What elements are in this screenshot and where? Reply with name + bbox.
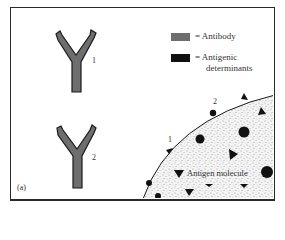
legend-antibody-text: = Antibody [195,32,236,41]
legend-antibody-swatch [171,33,190,41]
legend-determinant-text-2: determinants [206,64,253,73]
panel-label: (a) [17,184,26,192]
antigen-molecule [143,93,275,199]
legend-determinant-swatch [171,54,190,62]
antibody-2-label: 2 [92,154,96,162]
antigen-label: Antigen molecule [187,169,248,178]
legend-determinant-text-1: = Antigenic [195,53,237,62]
antigen-site-2-label: 2 [213,98,217,106]
antibody-1-label: 1 [92,57,96,65]
antigen-site-1-label: 1 [168,136,172,144]
antibody-2-icon [57,125,96,188]
antibody-1-icon [56,30,96,92]
